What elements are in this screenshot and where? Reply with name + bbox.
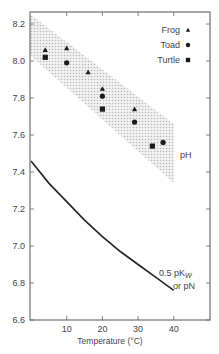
square-marker-icon: [186, 58, 190, 62]
square-marker-icon: [43, 55, 48, 60]
legend-label-turtle: Turtle: [157, 55, 180, 65]
legend-label-toad: Toad: [160, 40, 180, 50]
x-tick-label: 40: [169, 324, 179, 334]
y-tick-label: 6.8: [12, 278, 25, 288]
circle-marker-icon: [64, 60, 69, 65]
y-tick-label: 7.4: [12, 167, 25, 177]
curve-label-line1: 0.5 pK: [159, 268, 185, 278]
curve-label-line2: or pN: [173, 281, 195, 291]
y-tick-label: 7.8: [12, 93, 25, 103]
pkw-curve: [31, 161, 174, 291]
circle-marker-icon: [160, 140, 165, 145]
y-tick-label: 8.0: [12, 56, 25, 66]
circle-marker-icon: [100, 94, 105, 99]
y-tick-label: 7.6: [12, 130, 25, 140]
x-tick-label: 10: [62, 324, 72, 334]
curve-label-sub: W: [185, 272, 193, 279]
chart: 6.66.87.07.27.47.67.88.08.2 10203040 Tem…: [0, 0, 219, 354]
x-tick-label: 20: [97, 324, 107, 334]
square-marker-icon: [150, 144, 155, 149]
legend: FrogToadTurtle: [157, 25, 190, 65]
ph-range-band: [26, 11, 174, 183]
circle-marker-icon: [186, 43, 190, 47]
legend-label-frog: Frog: [161, 25, 180, 35]
band-label: pH: [180, 150, 192, 160]
circle-marker-icon: [132, 119, 137, 124]
square-marker-icon: [100, 107, 105, 112]
curve-label: 0.5 pKW or pN: [159, 268, 195, 291]
y-tick-label: 7.0: [12, 241, 25, 251]
plot-area: [26, 11, 174, 290]
svg-text:0.5 pKW: 0.5 pKW: [159, 268, 193, 279]
y-tick-label: 7.2: [12, 204, 25, 214]
x-axis-title: Temperature (°C): [77, 336, 142, 346]
y-tick-label: 8.2: [12, 19, 25, 29]
triangle-marker-icon: [186, 28, 190, 32]
y-tick-label: 6.6: [12, 315, 25, 325]
x-tick-label: 30: [133, 324, 143, 334]
